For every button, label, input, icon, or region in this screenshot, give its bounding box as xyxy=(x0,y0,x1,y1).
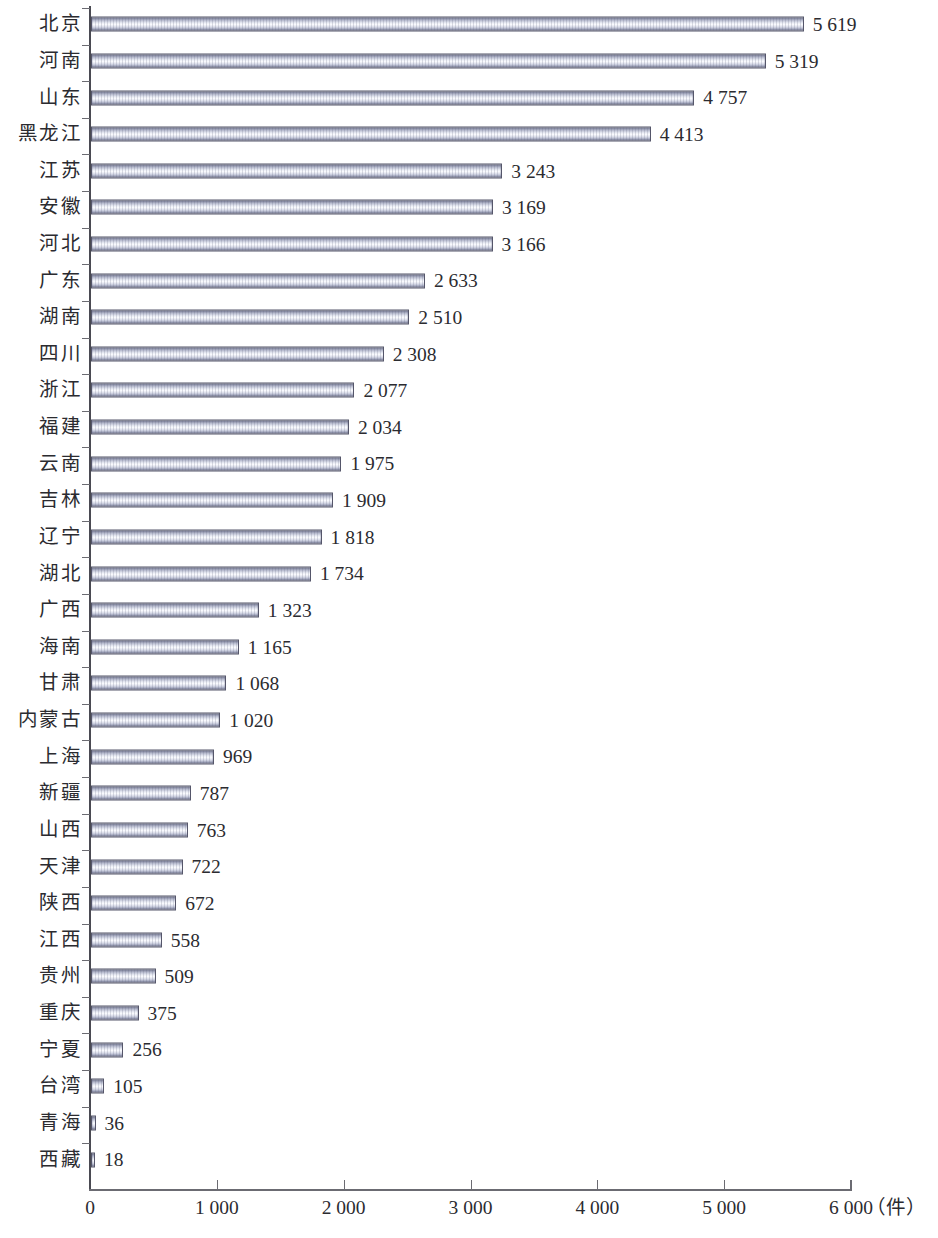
category-label: 浙江 xyxy=(39,381,82,401)
bar-and-value: 1 734 xyxy=(91,566,364,581)
bar-chart: 北京5 619河南5 319山东4 757黑龙江4 413江苏3 243安徽3 … xyxy=(0,0,938,1238)
bar-row: 安徽3 169 xyxy=(0,189,938,226)
bar-row: 台湾105 xyxy=(0,1068,938,1105)
bar-value-label: 4 413 xyxy=(660,124,704,144)
y-axis-tick xyxy=(82,960,90,961)
bar[interactable] xyxy=(91,676,226,691)
bar-row: 江苏3 243 xyxy=(0,152,938,189)
bar[interactable] xyxy=(91,639,239,654)
bar[interactable] xyxy=(91,53,766,68)
y-axis-tick xyxy=(82,1143,90,1144)
bar[interactable] xyxy=(91,1079,104,1094)
y-axis-tick xyxy=(82,228,90,229)
bar-and-value: 969 xyxy=(91,749,252,764)
bar-row: 新疆787 xyxy=(0,775,938,812)
bar-and-value: 18 xyxy=(91,1152,124,1167)
bar[interactable] xyxy=(91,566,311,581)
bar[interactable] xyxy=(91,383,354,398)
category-label: 辽宁 xyxy=(39,527,82,547)
y-axis-tick xyxy=(82,118,90,119)
bar[interactable] xyxy=(91,822,188,837)
y-axis-tick xyxy=(82,1033,90,1034)
bar-value-label: 1 323 xyxy=(268,600,312,620)
bar-row: 陕西672 xyxy=(0,885,938,922)
bar[interactable] xyxy=(91,420,349,435)
bar-row: 西藏18 xyxy=(0,1141,938,1178)
bar-and-value: 1 165 xyxy=(91,639,292,654)
bar[interactable] xyxy=(91,969,156,984)
bar-value-label: 1 975 xyxy=(350,454,394,474)
x-axis-tick-label: 0 xyxy=(85,1198,95,1218)
bar[interactable] xyxy=(91,493,333,508)
bar-value-label: 1 068 xyxy=(235,674,279,694)
bar[interactable] xyxy=(91,17,804,32)
y-axis-tick xyxy=(82,924,90,925)
bar-and-value: 1 818 xyxy=(91,529,374,544)
category-label: 广西 xyxy=(39,600,82,620)
bar[interactable] xyxy=(91,529,322,544)
bar-value-label: 1 020 xyxy=(229,710,273,730)
category-label: 重庆 xyxy=(39,1003,82,1023)
bar[interactable] xyxy=(91,1042,123,1057)
category-label: 海南 xyxy=(39,637,82,657)
bar-and-value: 1 323 xyxy=(91,603,312,618)
x-axis-tick xyxy=(217,1180,218,1190)
y-axis-tick xyxy=(82,1107,90,1108)
bar[interactable] xyxy=(91,713,220,728)
bar-value-label: 3 166 xyxy=(502,234,546,254)
bar[interactable] xyxy=(91,346,384,361)
bar[interactable] xyxy=(91,163,502,178)
bar-row: 吉林1 909 xyxy=(0,482,938,519)
category-label: 河南 xyxy=(39,51,82,71)
category-label: 宁夏 xyxy=(39,1040,82,1060)
bar[interactable] xyxy=(91,932,162,947)
bar-and-value: 5 619 xyxy=(91,17,857,32)
bar-row: 浙江2 077 xyxy=(0,372,938,409)
bar[interactable] xyxy=(91,90,694,105)
bar-and-value: 558 xyxy=(91,932,200,947)
bar[interactable] xyxy=(91,456,341,471)
bar-row: 湖南2 510 xyxy=(0,299,938,336)
bar[interactable] xyxy=(91,237,493,252)
bar[interactable] xyxy=(91,127,651,142)
bar[interactable] xyxy=(91,1115,96,1130)
bar-and-value: 1 068 xyxy=(91,676,279,691)
y-axis-tick xyxy=(82,447,90,448)
bar-value-label: 256 xyxy=(132,1040,161,1060)
bar-value-label: 3 243 xyxy=(511,161,555,181)
bar[interactable] xyxy=(91,273,425,288)
y-axis-tick xyxy=(82,594,90,595)
category-label: 台湾 xyxy=(39,1077,82,1097)
bar-row: 广西1 323 xyxy=(0,592,938,629)
x-axis-tick xyxy=(597,1180,598,1190)
bar[interactable] xyxy=(91,310,409,325)
bar-row: 云南1 975 xyxy=(0,445,938,482)
bar-and-value: 5 319 xyxy=(91,53,819,68)
y-axis-tick xyxy=(82,45,90,46)
bar[interactable] xyxy=(91,1006,139,1021)
bar[interactable] xyxy=(91,200,493,215)
bar-row: 甘肃1 068 xyxy=(0,665,938,702)
bar[interactable] xyxy=(91,896,176,911)
bar[interactable] xyxy=(91,1152,95,1167)
bar-and-value: 672 xyxy=(91,896,214,911)
bar-and-value: 36 xyxy=(91,1115,124,1130)
category-label: 甘肃 xyxy=(39,674,82,694)
y-axis-tick xyxy=(82,374,90,375)
category-label: 湖北 xyxy=(39,564,82,584)
category-label: 安徽 xyxy=(39,198,82,218)
y-axis-tick xyxy=(82,850,90,851)
bar-row: 河南5 319 xyxy=(0,43,938,80)
y-axis-tick xyxy=(82,557,90,558)
bar-value-label: 18 xyxy=(104,1150,124,1170)
bar-and-value: 105 xyxy=(91,1079,143,1094)
bar-row: 内蒙古1 020 xyxy=(0,702,938,739)
bar[interactable] xyxy=(91,786,191,801)
x-axis-tick xyxy=(724,1180,725,1190)
bar[interactable] xyxy=(91,859,183,874)
bar-row: 广东2 633 xyxy=(0,262,938,299)
bar[interactable] xyxy=(91,749,214,764)
category-label: 内蒙古 xyxy=(18,710,83,730)
bar[interactable] xyxy=(91,603,259,618)
bar-row: 辽宁1 818 xyxy=(0,519,938,556)
